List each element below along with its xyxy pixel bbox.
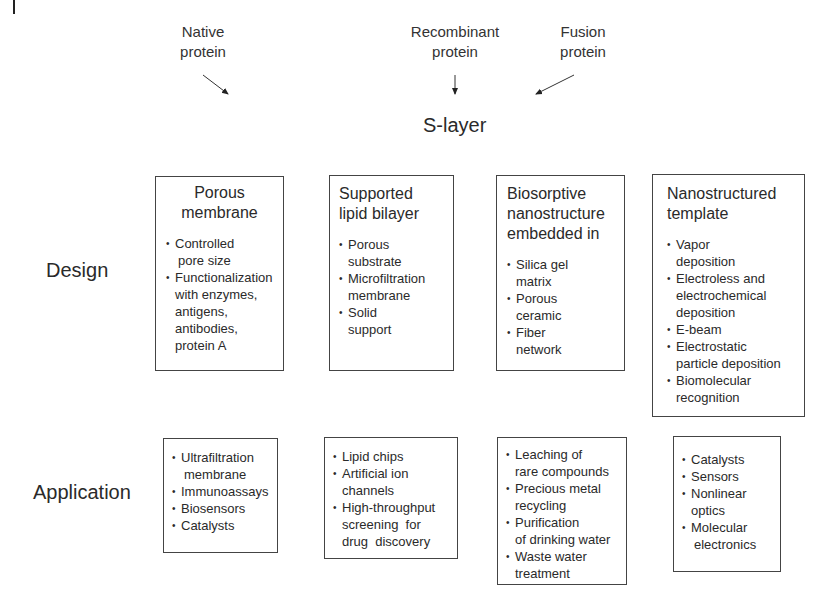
title-line: Nanostructured	[667, 184, 800, 204]
application-box-lipid-bilayer: Lipid chips Artificial ion channels High…	[324, 437, 458, 559]
box-title: Biosorptive nanostructure embedded in	[507, 184, 620, 244]
bullet-list: Lipid chips Artificial ion channels High…	[333, 448, 455, 550]
list-item: Fiber network	[507, 324, 620, 358]
design-box-nanostructured-template: Nanostructured template Vapor deposition…	[652, 174, 805, 417]
arrow-native	[203, 75, 228, 94]
list-item: Artificial ion channels	[333, 465, 455, 499]
list-item: Biosensors	[172, 500, 275, 517]
application-box-nanostructured-template: Catalysts Sensors Nonlinear optics Molec…	[673, 436, 781, 572]
bullet-list: Ultrafiltration membrane Immunoassays Bi…	[172, 449, 275, 534]
list-item: Ultrafiltration membrane	[172, 449, 275, 483]
title-line: lipid bilayer	[339, 204, 449, 224]
row-label-application: Application	[33, 481, 131, 504]
list-item: Porous ceramic	[507, 290, 620, 324]
list-item: Controlled pore size	[166, 235, 279, 269]
list-item: Porous substrate	[339, 236, 449, 270]
list-item: Biomolecular recognition	[667, 372, 800, 406]
bullet-list: Catalysts Sensors Nonlinear optics Molec…	[682, 451, 778, 553]
convergence-arrows	[0, 0, 830, 140]
application-box-porous-membrane: Ultrafiltration membrane Immunoassays Bi…	[163, 438, 278, 553]
title-line: template	[667, 204, 800, 224]
title-line: Porous	[166, 183, 273, 203]
list-item: Catalysts	[172, 517, 275, 534]
design-box-biosorptive-nanostructure: Biosorptive nanostructure embedded in Si…	[496, 175, 625, 371]
bullet-list: Silica gel matrix Porous ceramic Fiber n…	[507, 256, 620, 358]
design-box-porous-membrane: Porous membrane Controlled pore size Fun…	[155, 176, 284, 371]
list-item: Sensors	[682, 468, 778, 485]
list-item: Purification of drinking water	[506, 514, 624, 548]
title-line: membrane	[166, 203, 273, 223]
list-item: Electroless and electrochemical depositi…	[667, 270, 800, 321]
list-item: Electrostatic particle deposition	[667, 338, 800, 372]
arrow-fusion	[536, 75, 574, 94]
title-line: Biosorptive	[507, 184, 620, 204]
list-item: E-beam	[667, 321, 800, 338]
list-item: High-throughput screening for drug disco…	[333, 499, 455, 550]
list-item: Waste water treatment	[506, 548, 624, 582]
list-item: Leaching of rare compounds	[506, 446, 624, 480]
list-item: Nonlinear optics	[682, 485, 778, 519]
list-item: Microfiltration membrane	[339, 270, 449, 304]
box-title: Nanostructured template	[667, 184, 800, 224]
list-item: Solid support	[339, 304, 449, 338]
bullet-list: Controlled pore size Functionalization w…	[166, 235, 279, 354]
list-item: Catalysts	[682, 451, 778, 468]
list-item: Functionalization with enzymes, antigens…	[166, 269, 279, 354]
list-item: Vapor deposition	[667, 236, 800, 270]
bullet-list: Leaching of rare compounds Precious meta…	[506, 446, 624, 582]
title-line: Supported	[339, 184, 449, 204]
application-box-biosorptive: Leaching of rare compounds Precious meta…	[497, 437, 627, 585]
title-line: nanostructure	[507, 204, 620, 224]
list-item: Lipid chips	[333, 448, 455, 465]
list-item: Precious metal recycling	[506, 480, 624, 514]
title-line: embedded in	[507, 224, 620, 244]
box-title: Porous membrane	[166, 183, 279, 223]
list-item: Silica gel matrix	[507, 256, 620, 290]
bullet-list: Vapor deposition Electroless and electro…	[667, 236, 800, 406]
list-item: Molecular electronics	[682, 519, 778, 553]
list-item: Immunoassays	[172, 483, 275, 500]
design-box-supported-lipid-bilayer: Supported lipid bilayer Porous substrate…	[329, 175, 454, 371]
bullet-list: Porous substrate Microfiltration membran…	[339, 236, 449, 338]
row-label-design: Design	[46, 259, 108, 282]
s-layer-label: S-layer	[423, 114, 486, 137]
box-title: Supported lipid bilayer	[339, 184, 449, 224]
